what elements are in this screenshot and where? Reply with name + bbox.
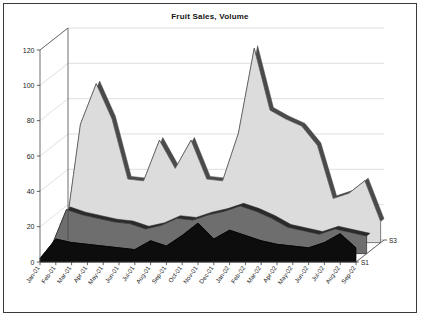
chart-frame: Fruit Sales, Volume 020406080100120 Jan-… xyxy=(3,3,417,313)
y-tick-labels-group: 020406080100120 xyxy=(23,47,35,266)
x-tick-labels-group: Jan-01Feb-01Mar-01Apr-01May-01Jun-01Jul-… xyxy=(24,264,357,285)
y-tick-label: 80 xyxy=(27,117,35,124)
depth-gridline-y-40 xyxy=(40,169,68,191)
x-tick-label: Sep-02 xyxy=(340,264,357,285)
x-tick-label: May-01 xyxy=(86,264,104,285)
area-chart-plot: 020406080100120 Jan-01Feb-01Mar-01Apr-01… xyxy=(4,4,418,314)
depth-tick-label-S3: S3 xyxy=(389,237,397,244)
y-tick-label: 20 xyxy=(27,223,35,230)
x-tick-label: Mar-02 xyxy=(245,264,262,285)
x-tick-label: Feb-02 xyxy=(229,264,246,285)
x-tick-label: Feb-01 xyxy=(40,264,57,285)
x-tick-label: Jun-01 xyxy=(103,264,120,284)
y-tick-label: 40 xyxy=(27,188,35,195)
depth-gridline-y-100 xyxy=(40,63,68,85)
x-tick-label: Sep-01 xyxy=(150,264,167,285)
x-tick-label: Mar-01 xyxy=(55,264,72,285)
x-tick-label: Dec-01 xyxy=(197,264,214,285)
y-tick-label: 100 xyxy=(23,82,35,89)
depth-gridline-y-60 xyxy=(40,134,68,156)
depth-tick-label-S1: S1 xyxy=(361,259,369,266)
series-group xyxy=(40,46,384,262)
y-tick-label: 60 xyxy=(27,153,35,160)
depth-gridline-y-80 xyxy=(40,99,68,121)
x-tick-label: Jul-02 xyxy=(310,264,326,282)
x-tick-label: Jul-01 xyxy=(120,264,136,282)
x-tick-label: Aug-02 xyxy=(324,264,341,285)
y-tick-label: 120 xyxy=(23,47,35,54)
x-tick-label: May-02 xyxy=(276,264,294,285)
x-tick-label: Jun-02 xyxy=(293,264,310,284)
x-tick-label: Nov-01 xyxy=(182,264,199,285)
x-tick-label: Aug-01 xyxy=(134,264,151,285)
